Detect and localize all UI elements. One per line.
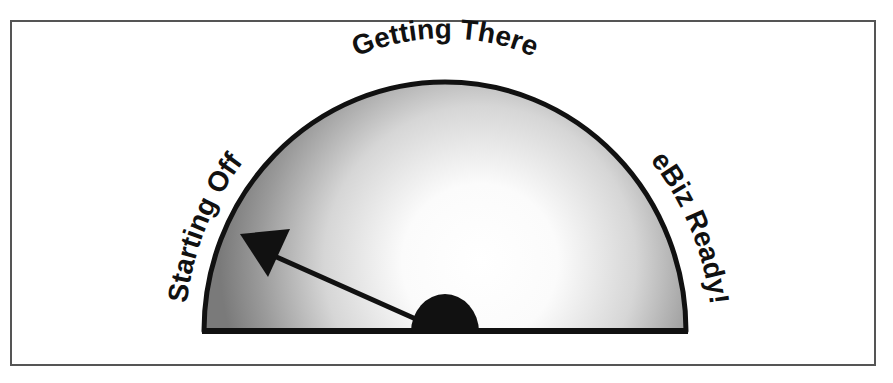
readiness-gauge: Getting There Starting Off eBiz Ready! — [0, 0, 893, 383]
gauge-dome — [204, 82, 686, 331]
label-getting-there: Getting There — [347, 13, 542, 62]
